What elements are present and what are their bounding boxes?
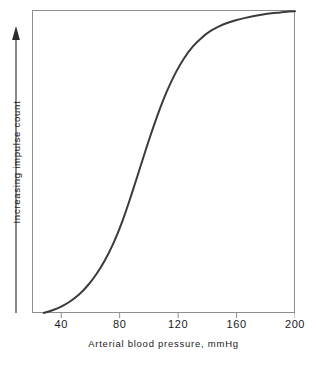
chart-figure: 40 80 120 160 200 Arterial blood pressur… — [0, 0, 313, 366]
x-tick-label-160: 160 — [226, 318, 246, 331]
y-axis-group: Increasing impulse count — [2, 10, 30, 313]
x-tick-label-120: 120 — [168, 318, 188, 331]
x-axis-tick-label-row: 40 80 120 160 200 — [32, 318, 295, 332]
x-axis-title: Arterial blood pressure, mmHg — [32, 338, 295, 349]
y-axis-title: Increasing impulse count — [11, 100, 22, 223]
x-tick-label-200: 200 — [285, 318, 305, 331]
x-tick-label-80: 80 — [113, 318, 126, 331]
x-tick-label-40: 40 — [55, 318, 68, 331]
plot-area-frame — [32, 10, 295, 313]
